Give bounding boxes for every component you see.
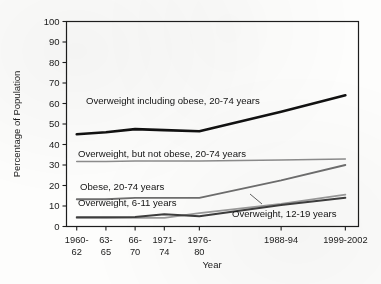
y-tick-label: 20	[49, 180, 60, 191]
y-tick-label: 70	[49, 77, 60, 88]
x-tick-label2-1: 65	[101, 247, 111, 257]
x-tick-label2-2: 70	[130, 247, 140, 257]
y-tick-label: 50	[49, 118, 60, 129]
x-tick-label-0: 1960-	[65, 235, 89, 245]
y-tick-label: 10	[49, 200, 60, 211]
y-tick-label: 30	[49, 159, 60, 170]
y-tick-label: 80	[49, 57, 60, 68]
x-tick-label-5: 1988-94	[264, 235, 298, 245]
x-tick-label-3: 1971-	[152, 235, 176, 245]
series-line-1	[77, 159, 346, 161]
y-tick-label: 100	[44, 16, 60, 27]
series-label-overweight-including-obese: Overweight including obese, 20-74 years	[86, 95, 260, 106]
y-tick-label: 0	[54, 221, 59, 232]
y-axis-title: Percentage of Population	[11, 71, 22, 178]
series-label-obese-20-74: Obese, 20-74 years	[80, 181, 164, 192]
x-tick-label-1: 63-	[99, 235, 112, 245]
x-tick-label-2: 66-	[128, 235, 141, 245]
chart-figure: 0102030405060708090100 1960-63-66-1971-1…	[0, 0, 381, 284]
y-tick-label: 60	[49, 98, 60, 109]
x-tick-label2-3: 74	[159, 247, 169, 257]
y-tick-label: 90	[49, 36, 60, 47]
series-label-overweight-12-19: Overweight, 12-19 years	[232, 208, 337, 219]
x-axis-title: Year	[202, 259, 221, 270]
x-tick-label-4: 1976-	[187, 235, 211, 245]
line-chart: 0102030405060708090100 1960-63-66-1971-1…	[0, 0, 381, 284]
x-tick-label2-0: 62	[72, 247, 82, 257]
x-tick-label2-4: 80	[194, 247, 204, 257]
x-axis-labels: 1960-63-66-1971-1976-1988-941999-2002626…	[65, 235, 368, 257]
leader-line-12-19	[250, 194, 262, 204]
x-tick-label-6: 1999-2002	[323, 235, 367, 245]
y-axis: 0102030405060708090100	[44, 16, 67, 232]
series-label-overweight-6-11: Overweight, 6-11 years	[78, 197, 177, 208]
x-axis-ticks	[77, 227, 346, 231]
series-label-overweight-not-obese: Overweight, but not obese, 20-74 years	[78, 148, 246, 159]
y-tick-label: 40	[49, 139, 60, 150]
